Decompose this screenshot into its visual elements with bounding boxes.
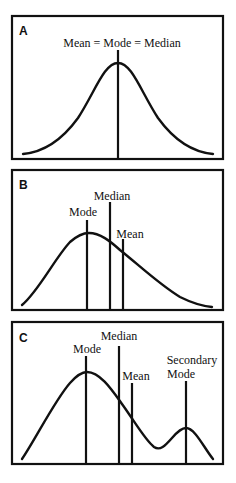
distribution-diagram: A Mean = Mode = Median B Median Mode Mea… — [0, 0, 236, 483]
panel-c-secondary-label-line2: Mode — [167, 367, 195, 381]
panel-c-secondary-label-line1: Secondary — [167, 353, 218, 367]
panel-c-label: C — [19, 331, 28, 345]
panel-b-label: B — [19, 178, 28, 192]
panel-a-label: A — [19, 24, 28, 38]
panel-a-mean-mode-median-label: Mean = Mode = Median — [63, 36, 181, 50]
panel-b: B Median Mode Mean — [12, 170, 223, 310]
panel-a: A Mean = Mode = Median — [12, 16, 223, 159]
panel-c-mean-label: Mean — [122, 369, 149, 383]
panel-c-bimodal-curve — [22, 372, 213, 459]
panel-b-mode-label: Mode — [69, 205, 97, 219]
panel-b-median-label: Median — [94, 189, 131, 203]
panel-c-frame — [12, 322, 223, 464]
panel-b-mean-label: Mean — [116, 227, 143, 241]
panel-c-median-label: Median — [101, 329, 138, 343]
panel-c-mode-label: Mode — [73, 342, 101, 356]
panel-b-skewed-curve — [22, 233, 212, 307]
panel-c: C Median Mode Mean Secondary Mode — [12, 322, 223, 464]
